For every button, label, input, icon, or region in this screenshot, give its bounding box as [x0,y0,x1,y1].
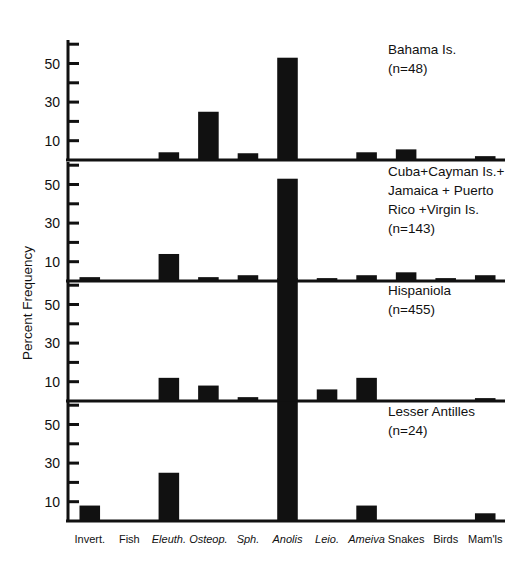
panel-1-bar-4 [238,275,259,281]
panel-3-bar-5 [277,401,298,521]
panel-0-tick-label-10: 10 [44,133,60,149]
x-axis-label-6: Leio. [315,533,339,545]
panel-3-bar-0 [79,506,100,521]
panel-0-bar-7 [356,152,377,160]
x-axis-label-5: Anolis [272,533,303,545]
panel-2-bar-5 [277,278,298,401]
panel-2-bar-6 [317,389,338,401]
chart-canvas: 103050Bahama Is.(n=48)103050Cuba+Cayman … [0,0,527,565]
chart-svg: 103050Bahama Is.(n=48)103050Cuba+Cayman … [0,0,527,565]
panel-3-tick-label-30: 30 [44,455,60,471]
panel-3-caption-line-1: (n=24) [388,423,427,438]
panel-1-bar-8 [396,272,417,281]
panel-2-bar-10 [475,398,496,401]
panel-1-bar-9 [435,278,456,281]
panel-1-bar-5 [277,179,298,281]
panel-3-tick-label-50: 50 [44,417,60,433]
x-axis-label-0: Invert. [74,533,105,545]
panel-2-tick-label-10: 10 [44,374,60,390]
panel-1-tick-label-50: 50 [44,177,60,193]
panel-1-caption-line-1: Jamaica + Puerto [388,183,493,198]
chart-figure: Percent Frequency 103050Bahama Is.(n=48)… [0,0,527,565]
panel-0-tick-label-50: 50 [44,56,60,72]
x-axis-label-8: Snakes [388,533,425,545]
panel-3-bar-7 [356,506,377,521]
panel-0-tick-label-30: 30 [44,94,60,110]
x-axis-label-2: Eleuth. [152,533,186,545]
panel-1-caption-line-0: Cuba+Cayman Is.+ [388,164,504,179]
x-axis-label-1: Fish [119,533,140,545]
panel-0-bar-3 [198,112,219,160]
panel-2-tick-label-30: 30 [44,335,60,351]
panel-3-bar-10 [475,513,496,521]
panel-2-bar-2 [159,378,180,401]
panel-2-bar-4 [238,397,259,401]
panel-1-caption-line-3: (n=143) [388,221,435,236]
panel-2-tick-label-50: 50 [44,297,60,313]
panel-2-caption-line-0: Hispaniola [388,283,452,298]
panel-0-bar-5 [277,58,298,160]
panel-0-bar-8 [396,149,417,160]
panel-1-bar-6 [317,278,338,281]
panel-2-bar-7 [356,378,377,401]
panel-0-bar-2 [159,152,180,160]
panel-0-caption-line-0: Bahama Is. [388,42,456,57]
panel-1-tick-label-30: 30 [44,215,60,231]
panel-2-bar-3 [198,386,219,401]
panel-1-bar-0 [79,277,100,281]
panel-1-bar-10 [475,275,496,281]
panel-1-caption-line-2: Rico +Virgin Is. [388,202,479,217]
panel-3-bar-2 [159,473,180,521]
x-axis-label-10: Mam'ls [468,533,503,545]
panel-1-bar-2 [159,254,180,281]
panel-1-bar-7 [356,275,377,281]
x-axis-label-3: Osteop. [189,533,228,545]
x-axis-label-9: Birds [433,533,459,545]
panel-3-caption-line-0: Lesser Antilles [388,404,475,419]
panel-1-tick-label-10: 10 [44,254,60,270]
panel-0-bar-4 [238,153,259,160]
panel-1-bar-3 [198,277,219,281]
panel-0-bar-10 [475,156,496,160]
panel-2-caption-line-1: (n=455) [388,302,435,317]
panel-0-caption-line-1: (n=48) [388,61,427,76]
x-axis-label-7: Ameiva [347,533,385,545]
panel-3-tick-label-10: 10 [44,494,60,510]
x-axis-label-4: Sph. [237,533,260,545]
